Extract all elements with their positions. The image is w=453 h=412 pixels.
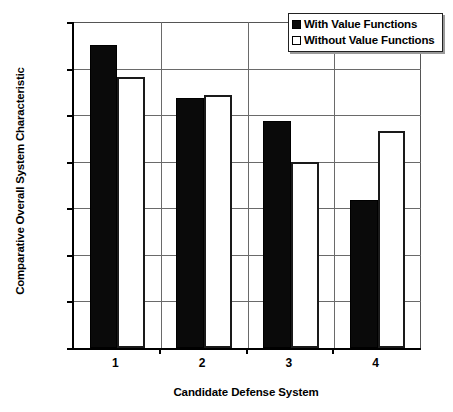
x-tick-label: 3 (269, 356, 309, 370)
y-axis-title: Comparative Overall System Characteristi… (14, 16, 26, 346)
legend-filled-square-icon (292, 20, 301, 29)
legend-hollow-square-icon (292, 36, 301, 45)
x-tick-mark (332, 348, 334, 354)
legend-item-label: Without Value Functions (304, 34, 435, 46)
bar (378, 131, 406, 348)
legend-item[interactable]: Without Value Functions (292, 32, 439, 48)
bar (176, 98, 204, 348)
plot-frame-right-border (420, 22, 421, 348)
legend-item[interactable]: With Value Functions (292, 16, 439, 32)
y-tick-mark (67, 115, 72, 117)
bar (291, 162, 319, 348)
y-tick-mark (67, 69, 72, 71)
bar-chart-figure: Comparative Overall System Characteristi… (0, 0, 453, 412)
x-group-divider (334, 22, 335, 348)
x-tick-mark (246, 348, 248, 354)
bar (117, 77, 145, 348)
x-tick-mark (159, 348, 161, 354)
bar (90, 45, 118, 348)
y-tick-mark (67, 208, 72, 210)
x-group-divider (161, 22, 162, 348)
x-tick-label: 2 (182, 356, 222, 370)
x-tick-label: 1 (95, 356, 135, 370)
x-group-divider (248, 22, 249, 348)
plot-area (72, 22, 421, 350)
y-tick-mark (67, 162, 72, 164)
x-axis-title: Candidate Defense System (72, 386, 420, 398)
bar (204, 95, 232, 348)
y-tick-mark (67, 301, 72, 303)
chart-legend: With Value FunctionsWithout Value Functi… (288, 13, 443, 52)
bar (350, 200, 378, 348)
x-tick-label: 4 (356, 356, 396, 370)
y-tick-mark (67, 255, 72, 257)
y-tick-mark (67, 22, 72, 24)
y-tick-mark (67, 348, 72, 350)
legend-item-label: With Value Functions (304, 18, 417, 30)
bar (263, 121, 291, 348)
